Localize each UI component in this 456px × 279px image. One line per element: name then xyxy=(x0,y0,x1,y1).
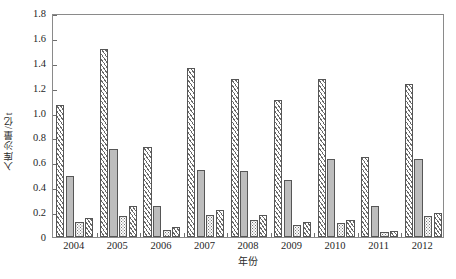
bar-series-4-2009 xyxy=(303,222,311,237)
bar-series-1-2010 xyxy=(318,79,326,237)
x-tick-label: 2005 xyxy=(107,240,128,252)
x-tick-label: 2012 xyxy=(412,240,433,252)
bar-series-4-2008 xyxy=(259,215,267,237)
bar-series-1-2012 xyxy=(405,84,413,237)
bar-series-3-2012 xyxy=(424,216,432,237)
x-tick-mark xyxy=(140,233,141,237)
bar-series-2-2005 xyxy=(109,149,117,237)
bar-series-2-2004 xyxy=(66,176,74,237)
bar-series-3-2005 xyxy=(119,216,127,237)
x-tick-mark xyxy=(401,233,402,237)
bar-series-4-2012 xyxy=(434,213,442,237)
bar-series-3-2011 xyxy=(380,232,388,237)
bar-series-2-2012 xyxy=(414,159,422,237)
bar-group-2009 xyxy=(274,15,311,237)
bar-series-1-2011 xyxy=(361,157,369,237)
bar-series-2-2007 xyxy=(197,170,205,237)
bar-series-4-2011 xyxy=(390,231,398,237)
bar-series-3-2009 xyxy=(293,225,301,237)
y-tick-label: 0.6 xyxy=(33,158,46,169)
bar-series-4-2006 xyxy=(172,227,180,237)
bar-series-1-2006 xyxy=(143,147,151,237)
x-tick-label: 2008 xyxy=(238,240,259,252)
bar-series-2-2009 xyxy=(284,180,292,237)
bar-series-4-2004 xyxy=(85,218,93,237)
chart-figure: 入库沙量/亿t 00.20.40.60.81.01.21.41.61.8 200… xyxy=(0,0,456,279)
bar-series-4-2005 xyxy=(129,206,137,237)
y-tick-label: 1.6 xyxy=(33,34,46,45)
bar-series-1-2004 xyxy=(56,105,64,237)
x-tick-mark xyxy=(184,233,185,237)
y-tick-label: 1.8 xyxy=(33,9,46,20)
bar-series-2-2008 xyxy=(240,171,248,237)
bar-series-1-2005 xyxy=(100,49,108,237)
bar-series-4-2010 xyxy=(346,220,354,237)
x-tick-label: 2010 xyxy=(325,240,346,252)
bar-series-1-2007 xyxy=(187,68,195,237)
bar-series-4-2007 xyxy=(216,210,224,237)
bar-group-2012 xyxy=(405,15,442,237)
bar-group-2008 xyxy=(231,15,268,237)
bar-series-3-2010 xyxy=(337,223,345,237)
x-tick-label: 2004 xyxy=(63,240,84,252)
plot-area xyxy=(52,14,444,238)
x-tick-mark xyxy=(314,233,315,237)
x-tick-mark xyxy=(97,233,98,237)
bar-series-2-2011 xyxy=(371,206,379,237)
y-axis-tick-labels: 00.20.40.60.81.01.21.41.61.8 xyxy=(18,0,50,279)
bar-series-1-2009 xyxy=(274,100,282,237)
y-tick-label: 1.0 xyxy=(33,108,46,119)
y-tick-label: 1.2 xyxy=(33,83,46,94)
bar-series-3-2006 xyxy=(163,230,171,237)
x-tick-mark xyxy=(271,233,272,237)
bar-group-2006 xyxy=(143,15,180,237)
y-axis-title: 入库沙量/亿t xyxy=(0,96,18,188)
y-tick-label: 0 xyxy=(41,233,46,244)
bar-group-2004 xyxy=(56,15,93,237)
bar-series-3-2008 xyxy=(250,220,258,237)
x-tick-label: 2011 xyxy=(368,240,389,252)
y-tick-label: 0.4 xyxy=(33,183,46,194)
bar-group-2010 xyxy=(318,15,355,237)
x-axis-tick-labels: 200420052006200720082009201020112012 xyxy=(52,240,444,256)
x-axis-title: 年份 xyxy=(52,256,444,268)
x-tick-label: 2007 xyxy=(194,240,215,252)
bar-series-3-2004 xyxy=(75,222,83,237)
x-tick-mark xyxy=(227,233,228,237)
y-tick-label: 0.8 xyxy=(33,133,46,144)
x-tick-label: 2006 xyxy=(150,240,171,252)
bar-series-2-2006 xyxy=(153,206,161,237)
x-tick-label: 2009 xyxy=(281,240,302,252)
bar-group-2005 xyxy=(100,15,137,237)
bar-group-2007 xyxy=(187,15,224,237)
bar-series-2-2010 xyxy=(327,159,335,237)
x-tick-mark xyxy=(358,233,359,237)
bar-group-2011 xyxy=(361,15,398,237)
y-tick-label: 0.2 xyxy=(33,208,46,219)
y-tick-label: 1.4 xyxy=(33,59,46,70)
bar-series-3-2007 xyxy=(206,215,214,237)
bar-series-1-2008 xyxy=(231,79,239,237)
